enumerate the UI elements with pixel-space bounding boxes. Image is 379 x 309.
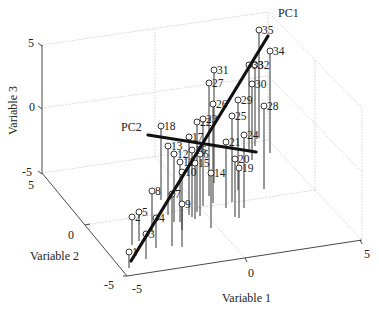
- z-axis-label: Variable 3: [6, 86, 20, 135]
- point-label: 24: [247, 129, 259, 141]
- point-label: 28: [267, 100, 279, 112]
- y-tick-5: 5: [28, 178, 34, 192]
- z-tick-5: 5: [28, 36, 34, 50]
- x-tick-5: 5: [364, 247, 370, 261]
- point-label: 20: [238, 153, 250, 165]
- pc2-label: PC2: [121, 120, 142, 134]
- point-label: 21: [229, 136, 241, 148]
- point-label: 30: [255, 78, 267, 90]
- chart-canvas: 5 0 -5 5 0 -5 -5 0 5 Variable 3 Variable…: [0, 0, 379, 309]
- z-tick-labels: 5 0 -5: [22, 36, 35, 179]
- x-tick-neg5: -5: [132, 282, 142, 296]
- x-tick-labels: -5 0 5: [132, 247, 370, 296]
- y-tick-neg5: -5: [104, 278, 114, 292]
- data-point: 9: [179, 198, 191, 210]
- x-tick-0: 0: [248, 266, 254, 280]
- point-label: 31: [217, 64, 229, 76]
- point-label: 35: [262, 24, 274, 36]
- point-label: 34: [273, 45, 285, 57]
- point-label: 29: [241, 94, 253, 106]
- z-tick-neg5: -5: [22, 165, 32, 179]
- pc1-label: PC1: [278, 6, 299, 20]
- point-label: 15: [198, 157, 210, 169]
- data-point: 8: [149, 185, 161, 197]
- point-label: 27: [212, 77, 224, 89]
- point-label: 14: [214, 167, 226, 179]
- z-tick-0: 0: [29, 100, 35, 114]
- x-axis-label: Variable 1: [222, 291, 271, 305]
- point-label: 5: [142, 206, 148, 218]
- point-label: 25: [235, 110, 247, 122]
- y-tick-0: 0: [68, 228, 74, 242]
- y-axis-label: Variable 2: [30, 249, 79, 263]
- x-axis: [127, 240, 362, 276]
- pc1-line: [131, 36, 268, 261]
- point-label: 8: [155, 185, 161, 197]
- point-label: 18: [164, 120, 176, 132]
- point-label: 9: [185, 198, 191, 210]
- y-tick-labels: 5 0 -5: [28, 178, 114, 292]
- pca-3d-stem-plot: 5 0 -5 5 0 -5 -5 0 5 Variable 3 Variable…: [0, 0, 379, 309]
